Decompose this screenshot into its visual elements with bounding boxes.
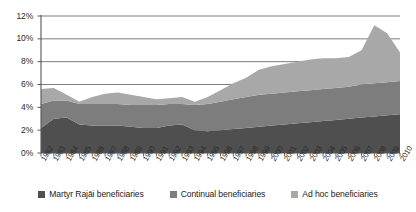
legend-swatch-icon	[170, 191, 177, 198]
y-axis-tick-label: 0%	[3, 148, 33, 158]
y-axis-tick-label: 10%	[3, 33, 33, 43]
area-chart: 0%2%4%6%8%10%12% 19821983198419851986198…	[0, 0, 416, 212]
legend-item[interactable]: Continual beneficiaries	[170, 189, 266, 199]
chart-legend: Martyr Rajāi beneficiariesContinual bene…	[0, 186, 416, 202]
stacked-area-series	[41, 25, 400, 153]
y-axis-tick-label: 8%	[3, 56, 33, 66]
legend-item[interactable]: Ad hoc beneficiaries	[291, 189, 377, 199]
y-axis-tick-label: 2%	[3, 125, 33, 135]
legend-swatch-icon	[38, 191, 45, 198]
y-axis-tick-label: 12%	[3, 11, 33, 21]
chart-plot-area	[0, 0, 416, 212]
legend-item-label: Continual beneficiaries	[181, 189, 266, 199]
legend-item[interactable]: Martyr Rajāi beneficiaries	[38, 189, 143, 199]
legend-item-label: Martyr Rajāi beneficiaries	[49, 189, 143, 199]
y-axis-tick-label: 4%	[3, 102, 33, 112]
legend-item-label: Ad hoc beneficiaries	[302, 189, 377, 199]
legend-swatch-icon	[291, 191, 298, 198]
y-axis-tick-label: 6%	[3, 79, 33, 89]
